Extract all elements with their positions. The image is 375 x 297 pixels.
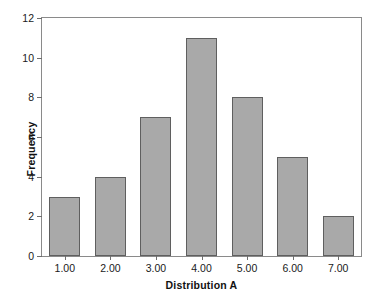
y-tick-label: 8 bbox=[28, 92, 34, 103]
y-tick-mark bbox=[37, 256, 42, 257]
x-tick-label: 5.00 bbox=[237, 263, 257, 274]
y-tick-label: 0 bbox=[28, 251, 34, 262]
bar bbox=[186, 38, 217, 256]
y-tick-label: 2 bbox=[28, 211, 34, 222]
bar bbox=[277, 157, 308, 256]
x-tick-label: 1.00 bbox=[55, 263, 75, 274]
x-tick-mark bbox=[65, 256, 66, 260]
x-tick-label: 7.00 bbox=[328, 263, 348, 274]
plot-area: 024681012 1.002.003.004.005.006.007.00 bbox=[41, 17, 362, 257]
bar bbox=[323, 216, 354, 256]
y-tick-label: 6 bbox=[28, 132, 34, 143]
x-tick-mark bbox=[110, 256, 111, 260]
x-tick-mark bbox=[156, 256, 157, 260]
bar bbox=[232, 97, 263, 256]
bar bbox=[95, 177, 126, 256]
bars-layer bbox=[42, 18, 361, 256]
y-tick-label: 10 bbox=[22, 52, 34, 63]
x-tick-label: 4.00 bbox=[191, 263, 211, 274]
x-tick-mark bbox=[202, 256, 203, 260]
bar bbox=[49, 197, 80, 257]
x-tick-mark bbox=[338, 256, 339, 260]
x-axis-title: Distribution A bbox=[41, 279, 362, 291]
y-axis-title: Frequency bbox=[25, 121, 37, 176]
y-tick-label: 4 bbox=[28, 171, 34, 182]
x-tick-mark bbox=[247, 256, 248, 260]
x-tick-label: 2.00 bbox=[100, 263, 120, 274]
histogram-figure: Frequency 024681012 1.002.003.004.005.00… bbox=[0, 0, 375, 297]
x-tick-mark bbox=[293, 256, 294, 260]
y-tick-label: 12 bbox=[22, 13, 34, 24]
bar bbox=[140, 117, 171, 256]
x-tick-label: 3.00 bbox=[146, 263, 166, 274]
x-tick-label: 6.00 bbox=[282, 263, 302, 274]
